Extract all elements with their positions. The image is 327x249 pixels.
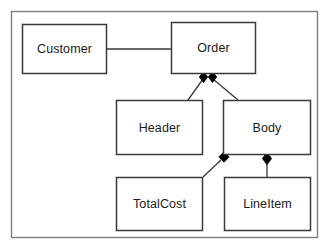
uml-class-diagram: Customer Order Header Body TotalCost Lin… [0, 0, 327, 249]
class-box-body[interactable] [224, 101, 311, 155]
class-box-lineitem[interactable] [225, 178, 311, 231]
class-box-customer[interactable] [23, 25, 107, 74]
class-box-order[interactable] [172, 23, 256, 74]
class-box-header[interactable] [117, 101, 203, 155]
class-box-totalcost[interactable] [117, 178, 203, 231]
diagram-vector-layer [0, 0, 327, 249]
